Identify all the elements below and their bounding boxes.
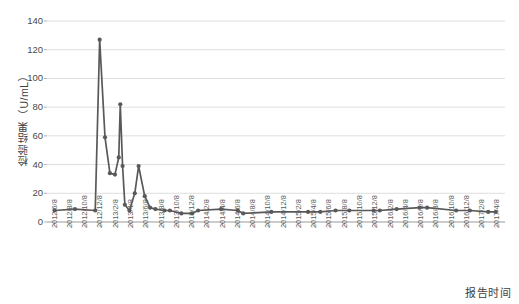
x-axis-tick-label: 2014/2/8	[203, 199, 210, 228]
x-axis-tick-label: 2013/10/8	[172, 195, 179, 228]
x-axis-tick-label: 2017/2/8	[478, 199, 485, 228]
data-point-marker	[395, 207, 399, 211]
data-point-marker	[425, 206, 429, 210]
data-point-marker	[113, 173, 117, 177]
x-axis-tick-label: 2012/6/8	[50, 199, 57, 228]
x-axis-tick-label: 2017/4/8	[493, 199, 500, 228]
x-axis-tick-label: 2016/12/8	[462, 195, 469, 228]
data-point-marker	[120, 164, 124, 168]
x-axis-tick-label: 2016/4/8	[401, 199, 408, 228]
x-axis-tick-label: 2013/2/8	[111, 199, 118, 228]
x-axis-tick-label: 2014/4/8	[218, 199, 225, 228]
data-point-marker	[98, 38, 102, 42]
data-point-marker	[108, 171, 112, 175]
x-axis-tick-label: 2012/10/8	[81, 195, 88, 228]
x-axis-tick-label: 2015/4/8	[310, 199, 317, 228]
x-axis-tick-label: 2014/6/8	[233, 199, 240, 228]
x-axis-tick-label: 2015/8/8	[340, 199, 347, 228]
x-axis-tick-label: 2013/6/8	[142, 199, 149, 228]
x-axis-tick-label: 2014/10/8	[264, 195, 271, 228]
x-axis-tick-label: 2016/6/8	[417, 199, 424, 228]
x-axis-tick-label: 2013/8/8	[157, 199, 164, 228]
x-axis-tick-label: 2016/2/8	[386, 199, 393, 228]
x-axis-tick-label: 2013/4/8	[127, 199, 134, 228]
x-axis-tick-label: 2013/12/8	[188, 195, 195, 228]
data-point-marker	[133, 191, 137, 195]
data-point-marker	[241, 211, 245, 215]
data-point-marker	[117, 155, 121, 159]
data-point-marker	[143, 194, 147, 198]
x-axis-tick-label: 2015/2/8	[294, 199, 301, 228]
data-point-marker	[103, 135, 107, 139]
x-axis-tick-label: 2015/12/8	[371, 195, 378, 228]
data-point-marker	[333, 208, 337, 212]
data-point-marker	[486, 210, 490, 214]
data-point-marker	[318, 210, 322, 214]
x-axis-tick-label: 2015/10/8	[356, 195, 363, 228]
x-axis-tick-label: 2014/8/8	[249, 199, 256, 228]
data-point-marker	[196, 208, 200, 212]
data-point-marker	[137, 164, 141, 168]
x-axis-tick-label: 2016/8/8	[432, 199, 439, 228]
chart-plot-area	[0, 0, 519, 304]
x-axis-tick-label: 2012/8/8	[65, 199, 72, 228]
x-axis-tick-label: 2012/12/8	[96, 195, 103, 228]
data-series-line	[55, 40, 496, 214]
x-axis-tick-label: 2015/6/8	[325, 199, 332, 228]
data-point-marker	[118, 102, 122, 106]
x-axis-title: 报告时间	[465, 284, 511, 300]
x-axis-tick-label: 2014/12/8	[279, 195, 286, 228]
chart-container: 检验结果（U/mL） 020406080100120140 2012/6/820…	[0, 0, 519, 304]
x-axis-tick-label: 2016/10/8	[447, 195, 454, 228]
